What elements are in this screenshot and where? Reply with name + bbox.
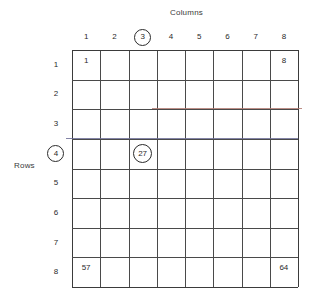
- grid-line-vertical: [298, 50, 299, 287]
- column-header-8[interactable]: 8: [270, 32, 298, 41]
- row-header-6[interactable]: 6: [48, 208, 64, 217]
- grid-line-horizontal: [72, 80, 298, 81]
- row-header-3[interactable]: 3: [48, 119, 64, 128]
- grid-line-horizontal: [72, 169, 298, 170]
- column-header-5[interactable]: 5: [185, 32, 213, 41]
- grid-line-horizontal: [72, 198, 298, 199]
- rows-axis-title-label: Rows: [14, 161, 35, 170]
- grid-cell-r1c1[interactable]: 1: [72, 56, 100, 65]
- artifact-line-row2-3: [152, 108, 302, 109]
- column-header-2[interactable]: 2: [100, 32, 128, 41]
- grid-line-horizontal: [72, 257, 298, 258]
- column-header-6[interactable]: 6: [213, 32, 241, 41]
- grid-cell-r1c8[interactable]: 8: [270, 56, 298, 65]
- grid-line-horizontal: [72, 228, 298, 229]
- row-header-7[interactable]: 7: [48, 238, 64, 247]
- column-header-4[interactable]: 4: [157, 32, 185, 41]
- row-header-1[interactable]: 1: [48, 60, 64, 69]
- grid-cell-r8c8[interactable]: 64: [270, 263, 298, 272]
- rows-axis-title: Rows: [14, 161, 35, 170]
- grid-cell-r8c1[interactable]: 57: [72, 263, 100, 272]
- row-header-5[interactable]: 5: [48, 178, 64, 187]
- columns-axis-title: Columns: [0, 8, 317, 17]
- column-header-7[interactable]: 7: [242, 32, 270, 41]
- grid-line-horizontal: [72, 50, 298, 51]
- row-header-4[interactable]: 4: [48, 149, 64, 158]
- grid-cell-r4c3-circled[interactable]: 27: [133, 144, 152, 163]
- columns-axis-title-label: Columns: [170, 8, 203, 17]
- row-header-8[interactable]: 8: [48, 267, 64, 276]
- grid-line-horizontal: [72, 109, 298, 110]
- grid-line-horizontal: [72, 139, 298, 140]
- grid-table[interactable]: 18275764: [72, 50, 298, 287]
- column-header-1[interactable]: 1: [72, 32, 100, 41]
- artifact-line-row3-4: [66, 138, 298, 139]
- row-header-2[interactable]: 2: [48, 89, 64, 98]
- grid-line-horizontal: [72, 287, 298, 288]
- column-header-3[interactable]: 3: [129, 32, 157, 41]
